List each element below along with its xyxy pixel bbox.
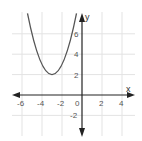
svg-text:-4: -4	[37, 99, 45, 108]
svg-text:-6: -6	[17, 99, 25, 108]
svg-text:2: 2	[99, 99, 104, 108]
x-tick-labels: -6 -4 -2 0 2 4	[17, 99, 124, 108]
svg-text:-2: -2	[70, 111, 78, 120]
svg-text:6: 6	[74, 30, 79, 39]
parabola-curve	[28, 13, 77, 74]
svg-text:0: 0	[75, 99, 80, 108]
x-axis-left-arrow-icon	[12, 92, 20, 98]
coordinate-plane: x y -6 -4 -2 0 2 4 6 4 2 -2	[0, 0, 142, 141]
svg-text:-2: -2	[57, 99, 65, 108]
y-axis-bottom-arrow-icon	[79, 128, 85, 137]
x-axis-label: x	[126, 84, 131, 94]
svg-text:4: 4	[119, 99, 124, 108]
y-axis-label: y	[85, 12, 90, 22]
svg-text:2: 2	[74, 71, 79, 80]
svg-text:4: 4	[74, 50, 79, 59]
